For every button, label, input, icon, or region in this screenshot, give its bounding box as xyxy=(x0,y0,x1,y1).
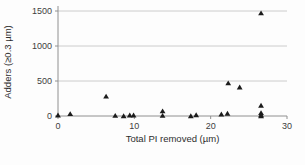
data-point-1 xyxy=(67,111,73,116)
y-axis-title: Adders (≥0.3 µm) xyxy=(0,6,15,118)
data-point-8 xyxy=(160,113,166,118)
data-point-12 xyxy=(225,111,231,116)
y-tick-label-500: 500 xyxy=(37,76,52,86)
data-point-10 xyxy=(193,112,199,117)
data-point-7 xyxy=(160,108,166,113)
data-point-2 xyxy=(103,94,109,99)
chart-container: Adders (≥0.3 µm) 0500100015000102030 Tot… xyxy=(0,0,305,165)
x-tick-label-20: 20 xyxy=(206,121,216,131)
data-point-16 xyxy=(258,103,264,108)
data-point-3 xyxy=(112,113,118,118)
y-tick-label-1000: 1000 xyxy=(32,41,52,51)
data-point-0 xyxy=(55,113,61,118)
x-tick-label-10: 10 xyxy=(129,121,139,131)
x-tick-label-30: 30 xyxy=(282,121,292,131)
data-point-6 xyxy=(131,113,137,118)
data-point-14 xyxy=(237,85,243,90)
y-tick-label-1500: 1500 xyxy=(32,6,52,16)
x-tick-label-0: 0 xyxy=(55,121,60,131)
x-axis-title: Total PI removed (µm) xyxy=(58,133,287,144)
y-tick-label-0: 0 xyxy=(47,111,52,121)
data-point-11 xyxy=(218,112,224,117)
